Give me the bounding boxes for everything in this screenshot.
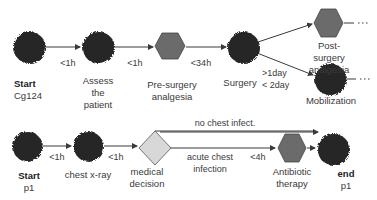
edge-label-p1-lt1h-b: <1h bbox=[108, 151, 123, 163]
label-surgery: Surgery bbox=[223, 77, 256, 89]
node-start-cg124[interactable] bbox=[13, 31, 45, 63]
start-title: Start bbox=[14, 78, 36, 89]
node-antibiotic-therapy[interactable] bbox=[278, 134, 306, 162]
p1-start-subtitle: p1 bbox=[24, 182, 35, 193]
node-surgery[interactable] bbox=[227, 31, 259, 63]
node-assess-patient[interactable] bbox=[82, 31, 114, 63]
label-antibiotic-therapy: Antibiotic therapy bbox=[273, 166, 312, 190]
node-end-p1[interactable] bbox=[317, 133, 349, 165]
label-chest-xray: chest x-ray bbox=[65, 169, 111, 181]
p1-start-title: Start bbox=[18, 170, 40, 181]
end-subtitle: p1 bbox=[341, 180, 352, 191]
label-pre-surgery-analgesia: Pre-surgery analgesia bbox=[147, 79, 197, 103]
label-start-p1: Startp1 bbox=[18, 170, 40, 194]
label-assess-patient: Assess the patient bbox=[83, 75, 114, 111]
node-start-p1[interactable] bbox=[12, 131, 42, 161]
node-pre-surgery-analgesia[interactable] bbox=[155, 33, 185, 59]
label-post-surgery-analgesia: Post-surgery analgesia bbox=[305, 40, 353, 76]
start-subtitle: Cg124 bbox=[14, 90, 42, 101]
end-title: end bbox=[338, 168, 355, 179]
edge-label-lt4h: <4h bbox=[250, 151, 265, 163]
edge-label-no-chest-infect: no chest infect. bbox=[195, 117, 256, 129]
node-post-surgery-analgesia[interactable] bbox=[314, 9, 343, 37]
edge-label-p1-lt1h-a: <1h bbox=[49, 151, 64, 163]
edge-label-acute-infection: acute chest infection bbox=[187, 151, 233, 175]
edge-surgery-post bbox=[258, 24, 312, 42]
edge-label-day-range: >1day < 2day bbox=[262, 67, 289, 91]
edge-label-lt1h-a: <1h bbox=[60, 57, 75, 69]
label-medical-decision: medical decision bbox=[130, 166, 165, 190]
node-chest-xray[interactable] bbox=[73, 131, 103, 161]
label-mobilization: Mobilization bbox=[306, 95, 356, 107]
edge-label-lt34h: <34h bbox=[191, 57, 211, 69]
label-end-p1: endp1 bbox=[338, 168, 355, 192]
node-medical-decision[interactable] bbox=[139, 131, 171, 165]
label-start-cg124: StartCg124 bbox=[14, 78, 42, 102]
edge-label-lt1h-b: <1h bbox=[127, 57, 142, 69]
